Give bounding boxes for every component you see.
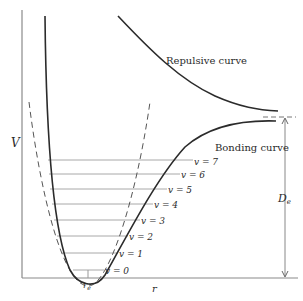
level-label-v7: v = 7	[194, 157, 218, 167]
bonding-curve-label: Bonding curve	[215, 142, 289, 153]
level-label-v1: v = 1	[119, 249, 143, 259]
level-label-v6: v = 6	[181, 170, 205, 180]
de-label: De	[277, 192, 291, 206]
potential-energy-diagram: V r re Repulsive curve Bonding curve De …	[0, 0, 303, 301]
level-label-v2: v = 2	[129, 232, 153, 242]
repulsive-curve-label: Repulsive curve	[166, 55, 247, 66]
re-label: re	[83, 280, 91, 291]
level-label-v4: v = 4	[154, 200, 178, 210]
level-label-v0: v = 0	[105, 266, 129, 276]
level-label-v3: v = 3	[141, 216, 165, 226]
y-axis-label: V	[11, 136, 21, 150]
level-label-v5: v = 5	[168, 185, 192, 195]
x-axis-label: r	[152, 283, 158, 294]
level-labels: v = 7 v = 6 v = 5 v = 4 v = 3 v = 2 v = …	[105, 157, 218, 276]
